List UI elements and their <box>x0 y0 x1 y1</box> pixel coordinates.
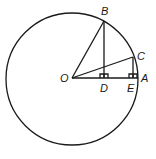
circle <box>6 13 138 145</box>
point-label-D: D <box>100 83 108 94</box>
segment-OC <box>72 57 133 78</box>
segment-OB <box>72 21 104 78</box>
point-label-A: A <box>141 73 148 84</box>
point-label-B: B <box>101 6 108 17</box>
diagram-canvas <box>0 0 156 159</box>
point-label-E: E <box>127 83 134 94</box>
geometry-diagram: B C O A D E <box>0 0 156 159</box>
point-label-C: C <box>137 51 145 62</box>
point-label-O: O <box>60 73 69 84</box>
